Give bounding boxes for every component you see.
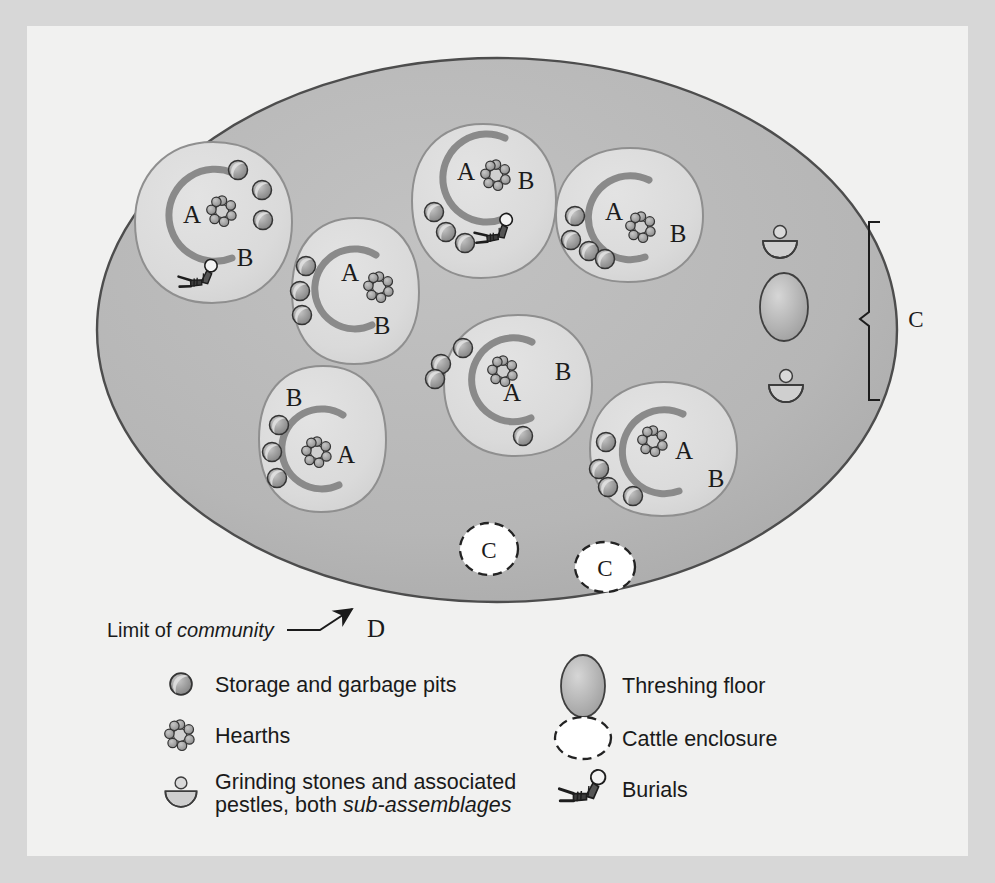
pit-icon xyxy=(425,203,444,222)
pit-icon xyxy=(454,339,473,358)
legend-label-pits: Storage and garbage pits xyxy=(215,673,456,697)
zone-label-b: B xyxy=(555,358,572,385)
legend-entry-threshing-floor[interactable]: Threshing floor xyxy=(561,655,765,717)
legend-label-cattle-enclosure: Cattle enclosure xyxy=(622,727,777,751)
leader-line xyxy=(287,609,352,630)
household-nw[interactable]: A B xyxy=(135,142,292,303)
zone-label-b: B xyxy=(670,220,687,247)
household-outline xyxy=(292,218,419,364)
pit-icon xyxy=(291,282,310,301)
grinding-line2-italic: sub-assemblages xyxy=(343,793,512,817)
legend-entry-cattle-enclosure[interactable]: Cattle enclosure xyxy=(555,717,777,759)
zone-label-b: B xyxy=(286,384,303,411)
pit-icon xyxy=(253,181,272,200)
grinding-line2-prefix: pestles, both xyxy=(215,793,343,817)
cattle-enclosure-2[interactable]: C xyxy=(575,542,635,592)
limit-prefix: Limit of xyxy=(107,619,177,641)
pit-icon xyxy=(170,673,192,695)
pit-icon xyxy=(590,460,609,479)
pit-icon xyxy=(293,306,312,325)
pit-icon xyxy=(263,443,282,462)
zone-label-a: A xyxy=(605,198,623,225)
pit-icon xyxy=(596,250,615,269)
household-n[interactable]: A B xyxy=(412,124,556,278)
legend-label-grinding-line2: pestles, both sub-assemblages xyxy=(215,793,512,817)
enclosure-label-c: C xyxy=(481,538,496,563)
pit-icon xyxy=(456,234,475,253)
zone-label-b: B xyxy=(374,312,391,339)
hearth-icon xyxy=(165,720,194,751)
pit-icon xyxy=(270,416,289,435)
pit-icon xyxy=(514,427,533,446)
legend: Storage and garbage pits Hearths Grindin… xyxy=(165,655,778,817)
pit-icon xyxy=(597,433,616,452)
figure-page: A B A B A B xyxy=(0,0,995,883)
zone-label-b: B xyxy=(237,244,254,271)
zone-label-a: A xyxy=(337,441,355,468)
household-se[interactable]: A B xyxy=(590,382,738,516)
cattle-enclosure-1[interactable]: C xyxy=(460,523,518,575)
pit-icon xyxy=(599,478,618,497)
threshing-floor-icon xyxy=(561,655,605,717)
community-limit-annotation: Limit of community D xyxy=(107,609,385,642)
pit-icon xyxy=(254,211,273,230)
zone-label-b: B xyxy=(708,465,725,492)
cattle-enclosure-icon xyxy=(555,717,611,759)
zone-label-b: B xyxy=(518,167,535,194)
community-limit-label: Limit of community xyxy=(107,619,275,641)
legend-entry-grinding-stones[interactable]: Grinding stones and associated pestles, … xyxy=(165,770,516,817)
legend-label-hearths: Hearths xyxy=(215,724,290,748)
communal-label-c: C xyxy=(908,307,923,332)
legend-entry-burials[interactable]: Burials xyxy=(556,769,688,804)
legend-entry-pits[interactable]: Storage and garbage pits xyxy=(170,673,456,697)
zone-label-a: A xyxy=(457,158,475,185)
household-outline xyxy=(412,124,556,278)
legend-label-grinding-line1: Grinding stones and associated xyxy=(215,770,516,794)
pit-icon xyxy=(562,231,581,250)
household-ne[interactable]: A B xyxy=(556,148,703,282)
household-w[interactable]: A B xyxy=(291,218,420,364)
zone-label-a: A xyxy=(183,201,201,228)
threshing-floor-icon xyxy=(760,273,808,341)
household-sw[interactable]: A B xyxy=(259,366,386,512)
limit-italic: community xyxy=(177,619,275,641)
zone-label-a: A xyxy=(675,437,693,464)
zone-label-d: D xyxy=(367,615,385,642)
pit-icon xyxy=(624,487,643,506)
pit-icon xyxy=(566,207,585,226)
grinding-stone-icon xyxy=(165,777,196,807)
legend-label-burials: Burials xyxy=(622,778,688,802)
pit-icon xyxy=(426,370,445,389)
legend-label-threshing-floor: Threshing floor xyxy=(622,674,765,698)
enclosure-label-c: C xyxy=(597,556,612,581)
pit-icon xyxy=(437,223,456,242)
pit-icon xyxy=(268,469,287,488)
burial-icon xyxy=(556,769,609,804)
pit-icon xyxy=(229,161,248,180)
settlement-diagram: A B A B A B xyxy=(0,0,995,883)
pit-icon xyxy=(297,257,316,276)
zone-label-a: A xyxy=(341,259,359,286)
legend-entry-hearths[interactable]: Hearths xyxy=(165,720,291,751)
